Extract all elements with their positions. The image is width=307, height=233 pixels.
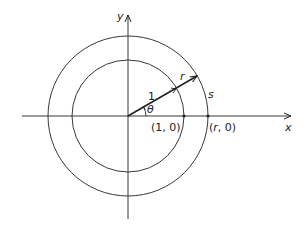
s-arc-label: s: [208, 88, 214, 101]
point-unit-label: (1, 0): [151, 121, 181, 134]
point-r-label: (r, 0): [209, 121, 236, 134]
r-label: r: [180, 70, 186, 83]
radius-vector: [128, 76, 197, 116]
y-axis-label: y: [116, 10, 124, 23]
x-axis-label: x: [284, 121, 292, 134]
concentric-circles-diagram: y x 1 r s θ (1, 0) (r, 0): [0, 0, 307, 233]
point-unit: [182, 114, 185, 117]
point-r: [206, 114, 209, 117]
unit-radius-label: 1: [148, 90, 155, 103]
theta-label: θ: [147, 103, 154, 116]
